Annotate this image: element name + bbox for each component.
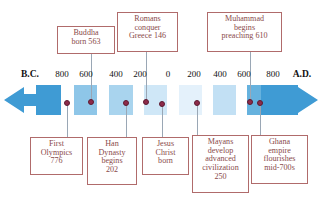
axis-tick-400: 400 [109,69,123,79]
axis-tick-600: 600 [79,69,93,79]
callout-line: born 563 [59,38,113,47]
axis-tick-800: 800 [55,69,69,79]
axis-tick-800: 800 [266,69,280,79]
axis-tick-0: 0 [166,69,171,79]
callout-jesus-christ-born[interactable]: JesusChristborn [142,137,189,175]
callout-line: 250 [194,173,247,182]
callout-han-dynasty[interactable]: HanDynastybegins202 [87,137,137,185]
event-dot-romans-conquer-greece[interactable] [143,99,149,105]
leader-line-ghana-empire [260,105,261,135]
callout-mayans-civilization[interactable]: Mayansdevelopadvancedcivilization250 [192,135,249,193]
callout-ghana-empire[interactable]: Ghanaempireflourishesmid-700s [251,135,308,184]
callout-line: preaching 610 [209,32,280,41]
callout-line: born [144,157,187,166]
axis-tick-400: 400 [213,69,227,79]
event-dot-ghana-empire[interactable] [257,100,263,106]
callout-line: Greece 146 [119,32,176,41]
leader-line-jesus-christ-born [162,105,163,137]
callout-muhammad-preaching[interactable]: Muhammadbeginspreaching 610 [207,12,282,52]
event-dot-han-dynasty[interactable] [123,100,129,106]
event-dot-muhammad-preaching[interactable] [247,99,253,105]
callout-line: 202 [89,166,135,175]
callout-buddha-born[interactable]: Buddhaborn 563 [57,26,115,54]
event-dot-jesus-christ-born[interactable] [159,101,165,107]
timeline-double-arrow-icon [0,85,322,115]
callout-line: mid-700s [253,164,306,173]
timeline-axis-labels: B.C.8006004002000200400600800A.D. [0,69,322,82]
axis-tick-ad: A.D. [293,69,311,79]
callout-line: 776 [32,157,81,166]
axis-tick-600: 600 [237,69,251,79]
axis-tick-200: 200 [133,69,147,79]
callout-first-olympics[interactable]: FirstOlympics776 [30,137,83,175]
leader-line-han-dynasty [126,105,127,137]
axis-tick-200: 200 [187,69,201,79]
callout-romans-conquer-greece[interactable]: RomansconquerGreece 146 [117,12,178,52]
event-dot-mayans-civilization[interactable] [194,100,200,106]
timeline-bar [0,85,322,115]
timeline-figure: Buddhaborn 563RomansconquerGreece 146Muh… [0,0,322,217]
event-dot-first-olympics[interactable] [64,100,70,106]
axis-tick-bc: B.C. [21,69,39,79]
event-dot-buddha-born[interactable] [88,99,94,105]
leader-line-first-olympics [67,105,68,137]
leader-line-mayans-civilization [197,105,198,135]
